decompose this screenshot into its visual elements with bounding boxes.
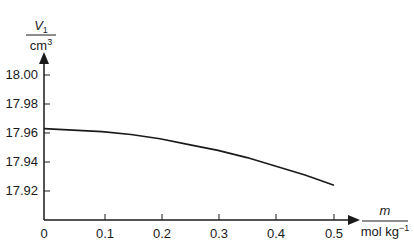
x-label-numerator: m [380,203,391,218]
x-ticks: 0 0.1 0.2 0.3 0.4 0.5 [40,214,343,241]
x-tick-label: 0.2 [153,226,171,241]
chart: V1 cm3 m mol kg−1 18.00 17.98 17.96 17.9… [0,0,414,251]
data-curve [44,129,334,186]
y-tick-label: 18.00 [5,67,38,82]
x-tick-label: 0.4 [267,226,285,241]
x-tick-label: 0.1 [96,226,114,241]
y-axis-arrow-icon [39,52,49,64]
x-tick-label: 0.3 [210,226,228,241]
x-label-superscript: −1 [399,223,409,233]
y-tick-label: 17.94 [5,154,38,169]
x-tick-label: 0.5 [325,226,343,241]
y-label-denominator: cm [30,38,47,53]
x-label-denominator: mol kg [361,224,399,239]
x-axis-label: m mol kg−1 [361,203,410,239]
svg-text:V1: V1 [34,18,48,35]
svg-text:cm3: cm3 [30,37,52,53]
y-label-superscript: 3 [47,37,52,47]
y-label-subscript: 1 [43,25,48,35]
svg-text:mol kg−1: mol kg−1 [361,223,410,239]
x-axis-arrow-icon [348,215,360,225]
y-axis-label: V1 cm3 [26,18,56,53]
x-tick-label: 0 [40,226,47,241]
y-tick-label: 17.96 [5,125,38,140]
y-tick-label: 17.98 [5,96,38,111]
y-tick-label: 17.92 [5,183,38,198]
